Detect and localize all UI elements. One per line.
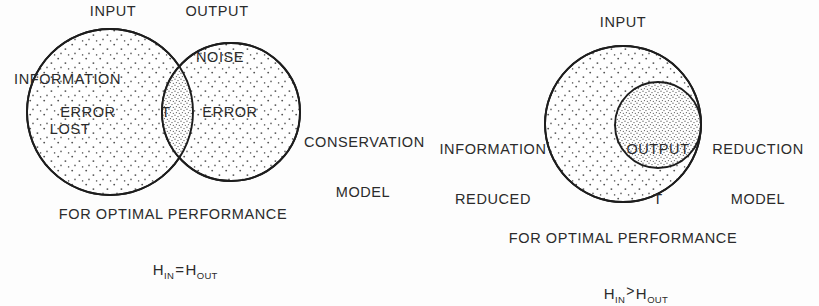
label-conservation-model-line1: CONSERVATION	[304, 134, 422, 151]
label-information-reduced-line1: INFORMATION	[434, 141, 552, 158]
label-information-lost-line1: INFORMATION	[14, 71, 126, 88]
formula-left-rhs: HOUT	[185, 261, 217, 278]
label-intersection-t: T	[155, 104, 177, 121]
label-conservation-model-line2: MODEL	[304, 184, 422, 201]
caption-right: FOR OPTIMAL PERFORMANCE	[498, 230, 748, 247]
label-input-left: INPUT	[78, 3, 148, 20]
formula-right-rhs: HOUT	[636, 285, 668, 302]
label-output-left: OUTPUT	[178, 3, 256, 20]
formula-right-operator: >	[625, 283, 636, 299]
label-input-right: INPUT	[588, 14, 658, 31]
formula-right-lhs: HIN	[604, 285, 625, 302]
formula-right: HIN>HOUT	[585, 266, 668, 306]
label-information-reduced-line2: REDUCED	[434, 191, 552, 208]
venn-figure: INPUT OUTPUT INFORMATION LOST NOISE ERRO…	[0, 0, 819, 306]
formula-left: HIN=HOUT	[134, 244, 218, 298]
formula-left-operator: =	[174, 261, 185, 278]
caption-left: FOR OPTIMAL PERFORMANCE	[48, 206, 298, 223]
label-output-t-line1: OUTPUT	[622, 141, 694, 158]
label-output-t-line2: T	[622, 191, 694, 208]
label-information-reduced: INFORMATION REDUCED	[434, 108, 552, 241]
label-error-right: ERROR	[199, 104, 261, 121]
label-error-left: ERROR	[57, 104, 119, 121]
label-reduction-model-line1: REDUCTION	[706, 141, 810, 158]
label-conservation-model: CONSERVATION MODEL	[304, 101, 422, 234]
label-output-t: OUTPUT T	[622, 108, 694, 241]
label-reduction-model: REDUCTION MODEL	[706, 108, 810, 241]
label-information-lost-line2: LOST	[14, 121, 126, 138]
label-noise: NOISE	[192, 49, 248, 66]
formula-left-lhs: HIN	[153, 261, 174, 278]
label-reduction-model-line2: MODEL	[706, 191, 810, 208]
